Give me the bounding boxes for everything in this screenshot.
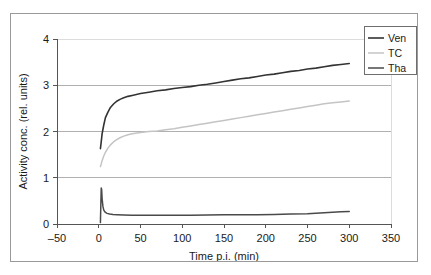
legend-label-tc: TC	[388, 47, 402, 59]
x-axis-title: Time p.i. (min)	[189, 250, 259, 261]
y-tick-label: 2	[43, 126, 49, 138]
gridlines-group	[57, 39, 391, 178]
y-tick-label: 4	[43, 33, 49, 45]
data-series-group	[100, 64, 349, 223]
series-line-tc	[100, 101, 349, 167]
y-tick-label: 3	[43, 79, 49, 91]
figure-frame: 01234 –50050100150200250300350 VenTCTha …	[10, 13, 418, 262]
y-tick-label: 1	[43, 172, 49, 184]
x-tick-label: 50	[134, 232, 146, 244]
x-tick-label: 250	[298, 232, 316, 244]
x-tick-label: 150	[215, 232, 233, 244]
chart-legend: VenTCTha	[364, 26, 416, 74]
y-axis-title: Activity conc. (rel. units)	[17, 73, 29, 189]
y-axis-ticks-group: 01234	[43, 33, 57, 230]
legend-label-ven: Ven	[388, 32, 406, 44]
y-tick-label: 0	[43, 218, 49, 230]
activity-concentration-line-chart: 01234 –50050100150200250300350 VenTCTha …	[11, 14, 417, 261]
series-line-tha	[100, 188, 349, 223]
legend-label-tha: Tha	[388, 62, 406, 74]
x-tick-label: 200	[257, 232, 275, 244]
x-tick-label: –50	[48, 232, 66, 244]
x-axis-ticks-group: –50050100150200250300350	[48, 224, 400, 244]
x-tick-label: 100	[173, 232, 191, 244]
x-tick-label: 0	[96, 232, 102, 244]
x-tick-label: 300	[340, 232, 358, 244]
x-tick-label: 350	[382, 232, 400, 244]
